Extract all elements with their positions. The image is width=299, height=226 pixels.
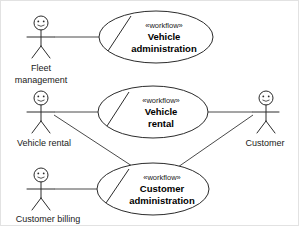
stick-figure-icon: [253, 91, 279, 133]
actor-customer-billing[interactable]: Customer billing: [16, 168, 81, 224]
actor-leg-right-icon: [41, 198, 50, 210]
actor-label-line1-fleet-management: Fleet: [31, 63, 52, 73]
usecase-name-line1-vehicle-rental: Vehicle: [145, 106, 178, 117]
usecase-stereotype-vehicle-rental: «workflow»: [142, 96, 180, 105]
usecase-stereotype-customer-administration: «workflow»: [143, 173, 181, 182]
use-case-diagram-canvas: «workflow» Vehicle administration «workf…: [0, 0, 299, 226]
actor-eye-left-icon: [37, 96, 39, 98]
actor-head-icon: [34, 91, 48, 105]
usecase-vehicle-administration[interactable]: «workflow» Vehicle administration: [99, 11, 213, 63]
actor-fleet-management[interactable]: Fleet management: [15, 16, 68, 85]
actor-eye-left-icon: [37, 173, 39, 175]
stick-figure-icon: [27, 168, 54, 210]
actor-label-line1-vehicle-rental: Vehicle rental: [17, 138, 71, 148]
actor-label-line1-customer: Customer: [245, 138, 284, 148]
actor-leg-right-icon: [266, 121, 275, 133]
actor-leg-left-icon: [257, 121, 266, 133]
stick-figure-icon: [27, 91, 54, 133]
actor-leg-left-icon: [32, 198, 41, 210]
usecase-name-line1-vehicle-administration: Vehicle: [148, 31, 181, 42]
actor-head-icon: [34, 168, 48, 182]
actor-customer[interactable]: Customer: [245, 91, 284, 148]
actor-label-line1-customer-billing: Customer billing: [16, 214, 81, 224]
actor-eye-right-icon: [268, 96, 270, 98]
usecase-name-line2-customer-administration: administration: [129, 195, 195, 206]
actor-eye-right-icon: [43, 173, 45, 175]
stick-figure-icon: [27, 16, 54, 58]
actor-leg-left-icon: [32, 46, 41, 58]
actor-leg-right-icon: [41, 121, 50, 133]
actor-head-icon: [259, 91, 273, 105]
actor-leg-right-icon: [41, 46, 50, 58]
actor-eye-right-icon: [43, 21, 45, 23]
usecase-customer-administration[interactable]: «workflow» Customer administration: [97, 163, 209, 215]
usecase-name-line1-customer-administration: Customer: [140, 183, 185, 194]
actor-vehicle-rental[interactable]: Vehicle rental: [17, 91, 71, 148]
actor-eye-left-icon: [262, 96, 264, 98]
usecase-vehicle-rental[interactable]: «workflow» Vehicle rental: [98, 86, 208, 138]
actor-label-line2-fleet-management: management: [15, 75, 68, 85]
usecase-stereotype-vehicle-administration: «workflow»: [145, 21, 183, 30]
actor-head-icon: [34, 16, 48, 30]
usecase-name-line2-vehicle-rental: rental: [148, 118, 174, 129]
actor-eye-right-icon: [43, 96, 45, 98]
actor-leg-left-icon: [32, 121, 41, 133]
use-case-diagram: «workflow» Vehicle administration «workf…: [1, 1, 299, 226]
usecase-name-line2-vehicle-administration: administration: [131, 43, 197, 54]
actor-eye-left-icon: [37, 21, 39, 23]
